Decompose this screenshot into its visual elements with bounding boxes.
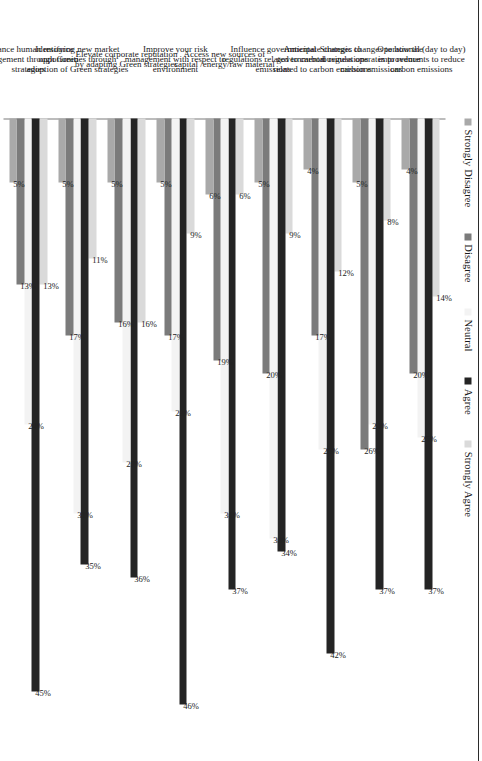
bar-row: 35% <box>80 118 88 755</box>
bar-disagree <box>311 118 319 335</box>
bar-row: 33% <box>269 118 277 755</box>
category-label-text: Enhance human resource management throug… <box>0 44 80 74</box>
bar-value-label: 5% <box>111 179 122 188</box>
bar-strongly-disagree <box>156 118 164 182</box>
bar-group-bars: 6%37%31%19%6% <box>199 118 248 755</box>
bar-agree <box>326 118 334 653</box>
bar-strongly-disagree <box>303 118 311 169</box>
legend-swatch-icon <box>464 118 471 125</box>
bar-value-label: 16% <box>141 320 157 329</box>
bar-value-label: 12% <box>337 269 353 278</box>
bar-row: 5% <box>107 118 115 755</box>
bar-strongly-agree <box>334 118 342 271</box>
bar-row: 5% <box>9 118 17 755</box>
bar-value-label: 31% <box>224 511 240 520</box>
bar-disagree <box>213 118 221 360</box>
bar-group-bars: 8%37%24%26%5% <box>347 118 396 755</box>
bar-value-label: 5% <box>12 179 23 188</box>
bar-value-label: 4% <box>405 167 416 176</box>
bar-value-label: 42% <box>330 651 346 660</box>
bar-row: 20% <box>262 118 270 755</box>
bar-neutral <box>368 118 376 424</box>
bar-row: 31% <box>220 118 228 755</box>
bar-row: 4% <box>303 118 311 755</box>
bar-row: 17% <box>65 118 73 755</box>
bar-value-label: 31% <box>77 511 93 520</box>
plot-area: Operational (day to day) improvements to… <box>3 0 445 761</box>
bar-value-label: 37% <box>379 587 395 596</box>
bar-row: 19% <box>213 118 221 755</box>
legend-swatch-icon <box>464 233 471 240</box>
bar-row: 16% <box>114 118 122 755</box>
bar-value-label: 24% <box>371 421 387 430</box>
bar-row: 31% <box>73 118 81 755</box>
bar-row: 20% <box>409 118 417 755</box>
bar-value-label: 20% <box>266 371 282 380</box>
bar-strongly-agree <box>383 118 391 220</box>
legend-label: Neutral <box>462 319 473 351</box>
bar-value-label: 13% <box>43 281 59 290</box>
rotated-figure-wrapper: Strongly DisagreeDisagreeNeutralAgreeStr… <box>3 0 479 761</box>
bar-row: 5% <box>254 118 262 755</box>
bar-value-label: 4% <box>307 167 318 176</box>
bar-strongly-disagree <box>9 118 17 182</box>
chart-legend: Strongly DisagreeDisagreeNeutralAgreeStr… <box>462 118 473 517</box>
bar-value-label: 11% <box>92 256 107 265</box>
legend-swatch-icon <box>464 440 471 447</box>
bar-group-bars: 12%42%26%17%4% <box>298 118 347 755</box>
bar-neutral <box>73 118 81 513</box>
legend-swatch-icon <box>464 377 471 384</box>
bar-row: 16% <box>137 118 145 755</box>
bar-disagree <box>262 118 270 373</box>
bar-group-bars: 16%36%27%16%5% <box>101 118 150 755</box>
bar-row: 42% <box>326 118 334 755</box>
bar-value-label: 5% <box>62 179 73 188</box>
bar-value-label: 8% <box>387 218 398 227</box>
bar-row: 13% <box>16 118 24 755</box>
bar-value-label: 37% <box>232 587 248 596</box>
bar-value-label: 23% <box>175 409 191 418</box>
legend-item-strongly-agree: Strongly Agree <box>462 440 473 516</box>
legend-item-agree: Agree <box>462 377 473 414</box>
bar-group: 16%36%27%16%5% <box>101 118 150 755</box>
bar-group: 12%42%26%17%4% <box>298 118 347 755</box>
bar-agree <box>375 118 383 589</box>
bar-group-bars: 9%34%33%20%5% <box>249 118 298 755</box>
bar-neutral <box>220 118 228 513</box>
bar-agree <box>130 118 138 577</box>
bar-row: 45% <box>31 118 39 755</box>
bar-row: 36% <box>130 118 138 755</box>
bar-value-label: 34% <box>281 549 297 558</box>
legend-label: Disagree <box>462 244 473 282</box>
bar-value-label: 20% <box>413 371 429 380</box>
bar-value-label: 35% <box>84 562 100 571</box>
bar-value-label: 9% <box>288 230 299 239</box>
bar-row: 13% <box>39 118 47 755</box>
bar-value-label: 9% <box>190 230 201 239</box>
bar-value-label: 37% <box>428 587 444 596</box>
bar-strongly-agree <box>137 118 145 322</box>
bar-row: 8% <box>383 118 391 755</box>
bar-group-bars: 14%37%25%20%4% <box>396 118 445 755</box>
bar-disagree <box>16 118 24 284</box>
bar-value-label: 36% <box>133 574 149 583</box>
bar-row: 27% <box>122 118 130 755</box>
bar-value-label: 24% <box>28 421 44 430</box>
bar-strongly-disagree <box>58 118 66 182</box>
bar-value-label: 17% <box>315 332 331 341</box>
bar-row: 26% <box>360 118 368 755</box>
bar-neutral <box>318 118 326 449</box>
bar-groups: 14%37%25%20%4%8%37%24%26%5%12%42%26%17%4… <box>3 118 445 755</box>
bar-neutral <box>171 118 179 411</box>
bar-agree <box>424 118 432 589</box>
bar-group: 9%46%23%17%5% <box>150 118 199 755</box>
legend-item-disagree: Disagree <box>462 233 473 282</box>
legend-label: Strongly Agree <box>462 451 473 516</box>
bar-group: 9%34%33%20%5% <box>249 118 298 755</box>
bar-value-label: 17% <box>69 332 85 341</box>
bar-value-label: 5% <box>356 179 367 188</box>
bar-value-label: 46% <box>183 702 199 711</box>
bar-strongly-agree <box>186 118 194 233</box>
bar-disagree <box>114 118 122 322</box>
bar-group: 11%35%31%17%5% <box>52 118 101 755</box>
